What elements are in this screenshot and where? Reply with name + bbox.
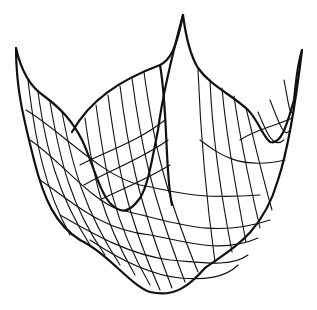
gridline [85,118,135,275]
gridline [198,70,215,262]
wireframe-surface-drawing [0,0,317,310]
gridline [100,165,170,200]
gridline [210,80,232,252]
gridline [26,110,260,196]
gridline [30,140,270,229]
wireframe-surface-figure [0,0,317,310]
gridline [270,100,290,133]
surface-gridlines [26,70,294,290]
surface-edge [72,15,183,132]
